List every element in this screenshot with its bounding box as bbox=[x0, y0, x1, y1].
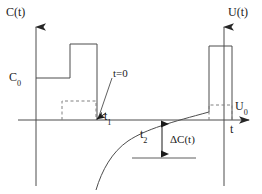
u0-dashed-reference-box bbox=[209, 105, 232, 120]
ct-dashed-reference-box bbox=[62, 101, 96, 120]
u0-level-subscript: 0 bbox=[244, 108, 248, 117]
u0-level-label: U0 bbox=[235, 100, 248, 116]
u0-level-base: U bbox=[235, 99, 244, 113]
c0-level-label: C0 bbox=[9, 71, 21, 87]
right-axis-title: U(t) bbox=[228, 6, 248, 18]
t1-marker-label: t1 bbox=[104, 110, 111, 126]
c0-level-subscript: 0 bbox=[17, 79, 21, 88]
ut-exponential-curve bbox=[96, 112, 209, 190]
t-equals-zero-label: t=0 bbox=[113, 68, 128, 79]
c0-level-base: C bbox=[9, 70, 17, 84]
left-axis-title: C(t) bbox=[6, 6, 25, 18]
t2-marker-label: t2 bbox=[140, 128, 147, 144]
t1-subscript: 1 bbox=[107, 118, 111, 127]
delta-ct-label: ΔC(t) bbox=[170, 134, 195, 145]
figure-container: C(t) U(t) C0 U0 t=0 t1 t2 ΔC(t) t bbox=[0, 0, 262, 194]
time-axis-label: t bbox=[230, 123, 233, 135]
ut-pulse-trace bbox=[209, 46, 232, 120]
ct-pulse-trace bbox=[36, 44, 97, 120]
t2-subscript: 2 bbox=[143, 136, 147, 145]
waveform-diagram bbox=[0, 0, 262, 194]
